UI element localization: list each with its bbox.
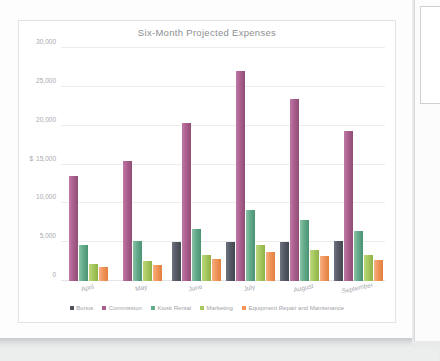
bar — [69, 176, 78, 281]
bar — [202, 255, 211, 281]
legend-item[interactable]: Commission — [102, 305, 142, 311]
chart-container: Six-Month Projected Expenses 05,00010,00… — [18, 20, 396, 323]
bar-group — [331, 48, 385, 281]
bar — [153, 265, 162, 281]
bar — [123, 161, 132, 281]
bar — [246, 210, 255, 281]
legend-item[interactable]: Bonus — [70, 305, 94, 311]
page-caption — [0, 352, 412, 361]
legend-item[interactable]: Marketing — [200, 305, 233, 311]
bar-group — [61, 48, 115, 281]
legend-label: Kiosk Rental — [157, 305, 191, 311]
legend-label: Bonus — [76, 305, 93, 311]
x-axis-tick-label: May — [114, 279, 170, 304]
x-axis-tick-label: July — [222, 279, 278, 304]
bar — [266, 252, 275, 282]
x-axis-tick-labels: AprilMayJuneJulyAugustSeptember — [61, 284, 385, 298]
bar — [79, 245, 88, 281]
bar — [226, 242, 235, 281]
bar — [354, 231, 363, 281]
bar — [256, 245, 265, 281]
bar — [182, 123, 191, 281]
y-axis-tick-label: $15,000 — [29, 154, 56, 161]
bar — [310, 250, 319, 281]
bar-group — [115, 48, 169, 281]
bar-groups — [61, 48, 385, 281]
legend-label: Marketing — [207, 305, 233, 311]
y-axis-tick-label: 0 — [52, 271, 56, 278]
chart-title: Six-Month Projected Expenses — [19, 27, 395, 38]
bar — [300, 220, 309, 281]
legend-item[interactable]: Kiosk Rental — [151, 305, 191, 311]
legend-swatch-icon — [70, 306, 74, 310]
chart-plot-area: 05,00010,000$15,00020,00025,00030,000 — [61, 48, 385, 281]
bar — [133, 241, 142, 281]
legend-label: Equipment Repair and Maintenance — [248, 305, 344, 311]
y-axis-tick-label: 10,000 — [36, 193, 56, 200]
bar — [290, 99, 299, 281]
bar — [89, 264, 98, 281]
bar — [334, 241, 343, 281]
bar-group — [277, 48, 331, 281]
legend-swatch-icon — [102, 306, 106, 310]
adjacent-page-panel — [420, 6, 440, 104]
y-axis-tick-label: 5,000 — [40, 232, 56, 239]
bar — [236, 71, 245, 281]
chart-legend: BonusCommissionKiosk RentalMarketingEqui… — [19, 302, 395, 314]
x-axis-tick-label: September — [330, 279, 386, 304]
x-axis-tick-label: April — [60, 279, 116, 304]
currency-symbol: $ — [29, 154, 33, 161]
bar — [172, 242, 181, 281]
legend-label: Commission — [109, 305, 142, 311]
legend-swatch-icon — [151, 306, 155, 310]
y-axis-tick-label: 20,000 — [36, 115, 56, 122]
y-axis-tick-label: 25,000 — [36, 76, 56, 83]
bar — [192, 229, 201, 281]
x-axis-tick-label: August — [276, 279, 332, 304]
y-axis-tick-label: 30,000 — [36, 38, 56, 45]
legend-item[interactable]: Equipment Repair and Maintenance — [242, 305, 344, 311]
bar — [364, 255, 373, 281]
bar — [280, 242, 289, 281]
bar-group — [169, 48, 223, 281]
x-axis-tick-label: June — [168, 279, 224, 304]
document-page: Six-Month Projected Expenses 05,00010,00… — [0, 0, 412, 341]
bar — [320, 256, 329, 281]
legend-swatch-icon — [242, 306, 246, 310]
bar — [344, 131, 353, 281]
bar — [143, 261, 152, 281]
page-shadow — [0, 338, 412, 348]
bar-group — [223, 48, 277, 281]
legend-swatch-icon — [200, 306, 204, 310]
